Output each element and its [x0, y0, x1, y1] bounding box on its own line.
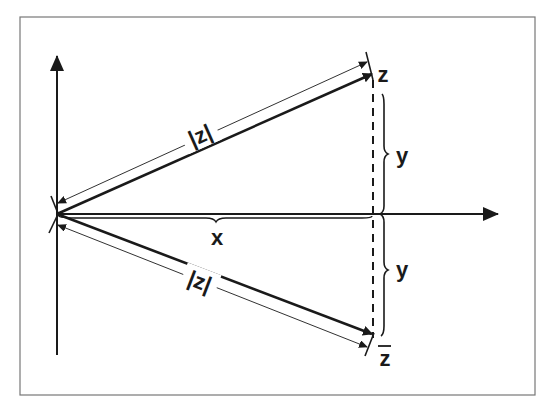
imag-part-label-lower: y — [396, 257, 409, 282]
brace-y-lower — [380, 214, 388, 336]
point-z-label: z — [378, 62, 389, 87]
diagram-frame — [20, 17, 535, 395]
brace-x — [59, 216, 372, 222]
vector-z — [57, 74, 372, 214]
imag-part-label-upper: y — [396, 143, 409, 168]
brace-y-upper — [380, 94, 388, 214]
point-zbar-label: z — [380, 346, 391, 371]
diagram-canvas: |z| |z| x y y z z — [0, 0, 547, 407]
real-part-label: x — [211, 225, 224, 250]
